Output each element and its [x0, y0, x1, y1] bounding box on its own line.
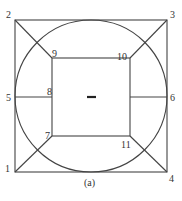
node-label-2: 2: [6, 9, 11, 20]
edge-2-9: [15, 20, 52, 58]
node-label-1: 1: [5, 163, 10, 174]
node-label-10: 10: [117, 51, 127, 62]
node-label-3: 3: [170, 9, 175, 20]
node-label-4: 4: [169, 173, 174, 184]
node-label-8: 8: [47, 86, 52, 97]
caption: (a): [84, 177, 95, 189]
node-label-9: 9: [52, 48, 57, 59]
edge-3-10: [130, 20, 167, 58]
mesh-diagram: 1 2 3 4 5 6 7 8 9 10 11 (a): [0, 0, 182, 201]
edge-4-11: [130, 136, 167, 172]
node-label-5: 5: [6, 92, 11, 103]
node-label-7: 7: [45, 130, 50, 141]
node-label-11: 11: [121, 139, 131, 150]
edge-1-7: [15, 136, 52, 172]
node-label-6: 6: [170, 92, 175, 103]
